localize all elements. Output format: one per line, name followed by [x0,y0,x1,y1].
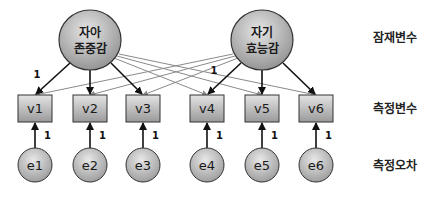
sem-diagram: 자아 존중감 자기 효능감 1 1 v1 v2 v3 v4 v5 [0,0,424,197]
observed-label: v6 [308,101,324,116]
observed-label: v3 [135,101,151,116]
error-label: e6 [308,158,324,173]
error-e2: e2 [73,148,107,182]
error-terms: e1 e2 e3 e4 e5 e6 [18,148,333,182]
latent-self-esteem: 자아 존중감 [59,10,121,70]
latent-label-line2: 존중감 [74,41,107,56]
error-weight-e3: 1 [152,130,159,141]
fixed-loading-v1: 1 [34,69,41,80]
cross-path-self-esteem-v6 [119,54,316,95]
error-e6: e6 [299,148,333,182]
error-e5: e5 [245,148,279,182]
latent-label-line2: 효능감 [246,41,279,56]
latent-label-line1: 자아 [79,25,101,40]
error-weight-e6: 1 [325,130,332,141]
observed-v1: v1 [18,95,52,122]
error-label: e3 [135,158,151,173]
error-weight-e2: 1 [99,130,106,141]
observed-v6: v6 [299,95,333,122]
error-weight-e1: 1 [44,130,51,141]
observed-label: v5 [254,101,270,116]
error-label: e5 [254,158,270,173]
observed-label: v2 [82,101,98,116]
error-weights: 1 1 1 1 1 1 [44,130,332,141]
error-weight-e4: 1 [216,130,223,141]
observed-v4: v4 [190,95,224,122]
error-e1: e1 [18,148,52,182]
observed-variables: v1 v2 v3 v4 v5 v6 [18,95,333,122]
error-label: e4 [199,158,215,173]
fixed-loading-v4: 1 [211,65,218,76]
path-self-esteem-v1 [36,63,70,94]
observed-v3: v3 [126,95,160,122]
observed-v5: v5 [245,95,279,122]
error-e3: e3 [126,148,160,182]
error-label: e2 [82,158,98,173]
error-weight-e5: 1 [271,130,278,141]
observed-label: v1 [27,101,43,116]
row-label-observed: 측정변수 [373,101,417,116]
observed-label: v4 [199,101,215,116]
row-label-latent: 잠재변수 [373,30,417,45]
row-label-error: 측정오차 [373,158,417,173]
latent-label-line1: 자기 [251,25,273,40]
observed-v2: v2 [73,95,107,122]
error-label: e1 [27,158,43,173]
latent-self-efficacy: 자기 효능감 [231,10,293,70]
error-e4: e4 [190,148,224,182]
